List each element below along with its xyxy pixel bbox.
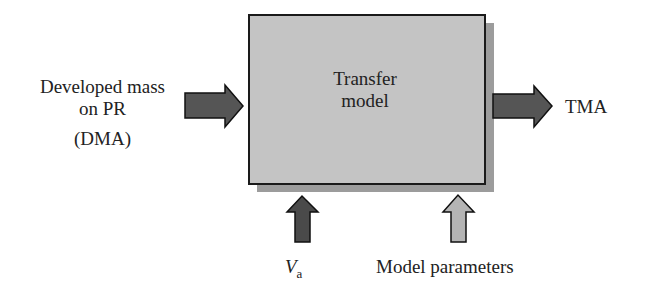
va-label-main: V [285, 256, 297, 277]
arrow-up-icon [287, 196, 318, 242]
arrow-right-icon [185, 85, 243, 127]
va-label-sub: a [297, 266, 303, 281]
box-label-line1: Transfer [290, 68, 440, 90]
input-left-line1: Developed mass [20, 76, 185, 98]
va-label: Va [285, 256, 302, 285]
arrow-up-icon [443, 195, 474, 242]
input-left-line3: (DMA) [20, 128, 185, 150]
input-left-label: Developed mass on PR (DMA) [20, 76, 185, 150]
arrow-right-icon [493, 86, 552, 127]
input-left-line2: on PR [20, 98, 185, 120]
box-label: Transfer model [290, 68, 440, 112]
box-label-line2: model [290, 90, 440, 112]
output-label: TMA [565, 96, 607, 118]
diagram-canvas: Transfer model Developed mass on PR (DMA… [0, 0, 645, 289]
model-parameters-label: Model parameters [376, 256, 514, 278]
